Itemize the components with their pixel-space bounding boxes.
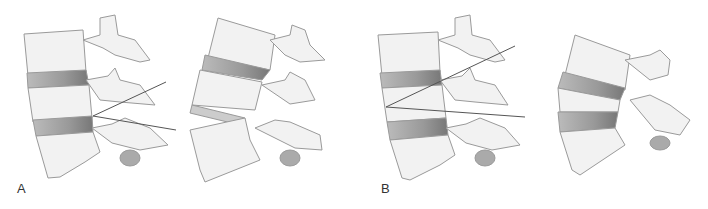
spine-illustration [0,0,708,209]
spine-a-extended [190,18,325,182]
spine-a-flexed [24,15,168,178]
spine-b-flexed [378,15,520,180]
spine-b-extended [558,35,690,175]
